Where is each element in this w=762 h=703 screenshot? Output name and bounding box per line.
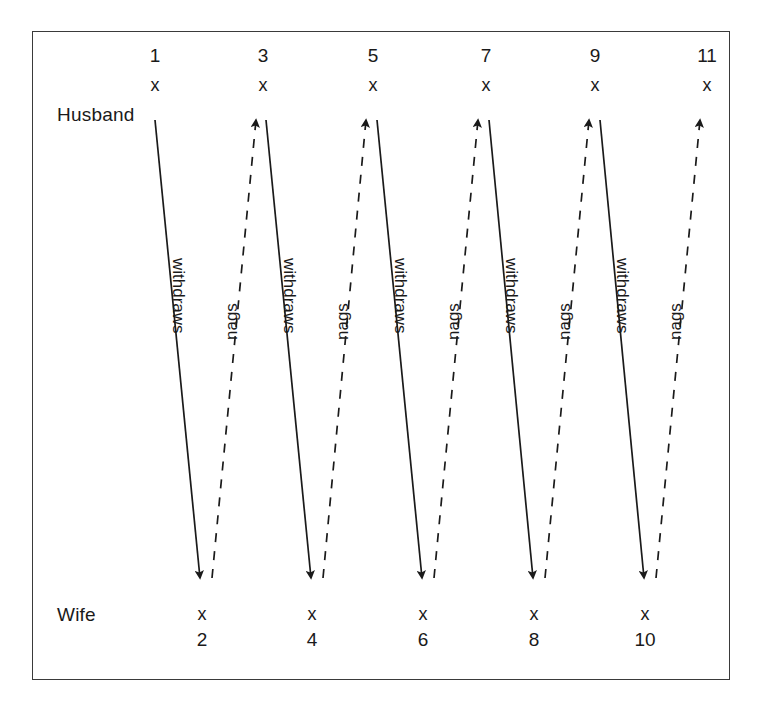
wife-node-marker-10: x — [625, 604, 665, 625]
edge-label-nags-8: nags — [555, 303, 575, 340]
edge-nags-10 — [656, 120, 700, 578]
edge-label-withdraws-1: withdraws — [168, 258, 188, 334]
demand-withdraw-cycle-diagram: Husband Wife 1x3x5x7x9x11xx2x4x6x8x10 wi… — [0, 0, 762, 703]
edge-withdraws-1 — [155, 120, 200, 578]
edge-label-withdraws-9: withdraws — [612, 258, 632, 334]
edge-label-nags-10: nags — [666, 303, 686, 340]
wife-turn-number-10: 10 — [625, 629, 665, 651]
edge-nags-8 — [545, 120, 589, 578]
husband-turn-number-1: 1 — [135, 45, 175, 67]
edge-layer — [155, 120, 700, 578]
edge-withdraws-3 — [266, 120, 311, 578]
husband-node-marker-5: x — [353, 75, 393, 96]
husband-turn-number-9: 9 — [575, 45, 615, 67]
husband-turn-number-3: 3 — [243, 45, 283, 67]
edge-label-withdraws-5: withdraws — [390, 258, 410, 334]
edge-label-nags-4: nags — [333, 303, 353, 340]
husband-turn-number-5: 5 — [353, 45, 393, 67]
edge-withdraws-5 — [377, 120, 422, 578]
wife-node-marker-2: x — [182, 604, 222, 625]
wife-node-marker-6: x — [403, 604, 443, 625]
husband-node-marker-7: x — [466, 75, 506, 96]
husband-turn-number-7: 7 — [466, 45, 506, 67]
wife-turn-number-6: 6 — [403, 629, 443, 651]
wife-node-marker-8: x — [514, 604, 554, 625]
edge-label-nags-6: nags — [444, 303, 464, 340]
wife-turn-number-4: 4 — [292, 629, 332, 651]
husband-turn-number-11: 11 — [687, 45, 727, 67]
edge-nags-2 — [212, 120, 256, 578]
wife-turn-number-8: 8 — [514, 629, 554, 651]
husband-node-marker-1: x — [135, 75, 175, 96]
husband-node-marker-3: x — [243, 75, 283, 96]
edge-withdraws-9 — [600, 120, 644, 578]
husband-node-marker-11: x — [687, 75, 727, 96]
edge-label-withdraws-3: withdraws — [279, 258, 299, 334]
edge-label-nags-2: nags — [222, 303, 242, 340]
edge-withdraws-7 — [489, 120, 533, 578]
edge-label-withdraws-7: withdraws — [501, 258, 521, 334]
wife-node-marker-4: x — [292, 604, 332, 625]
wife-turn-number-2: 2 — [182, 629, 222, 651]
edge-nags-4 — [323, 120, 366, 578]
edge-nags-6 — [434, 120, 478, 578]
wife-role-label: Wife — [57, 604, 96, 626]
husband-role-label: Husband — [57, 104, 134, 126]
husband-node-marker-9: x — [575, 75, 615, 96]
